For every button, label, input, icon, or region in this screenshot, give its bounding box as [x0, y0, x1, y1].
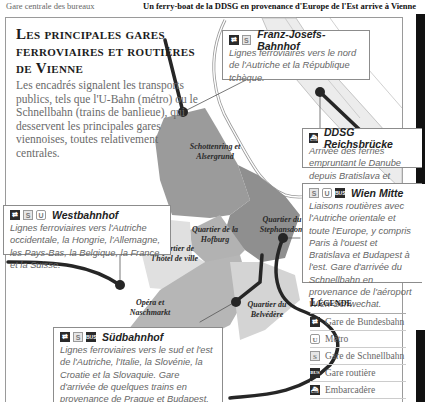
schnellbahn-icon: S	[73, 332, 83, 342]
metro-icon: U	[36, 210, 46, 220]
district-label-hofburg: Quartier de la Hofburg	[185, 225, 245, 244]
legend-item-gare-routiere: BUS Gare routière	[310, 365, 406, 382]
station-box-suedbahnhof: ⇄ S BUS Südbahnhof Lignes ferroviaires v…	[53, 327, 223, 402]
station-name: Wien Mitte	[351, 187, 403, 199]
marker-reichsbruecke	[315, 87, 325, 97]
gare-routiere-icon: BUS	[335, 188, 345, 198]
embarcadere-icon: ⛴	[309, 133, 318, 143]
district-label-opera: Opéra et Naschmarkt	[120, 298, 180, 317]
district-label-belvedere: Quartier du Belvédère	[232, 300, 302, 319]
legend-item-embarcadere: ⛴ Embarcadère	[310, 382, 406, 399]
gare-routiere-icon: BUS	[86, 332, 96, 342]
schnellbahn-icon: S	[310, 351, 320, 361]
legend-label: Métro	[325, 334, 348, 344]
gare-routiere-icon: BUS	[310, 368, 320, 378]
marker-westbahnhof	[115, 280, 125, 290]
legend-item-bundesbahn: ⇄ Gare de Bundesbahn	[310, 314, 406, 331]
station-name: Südbahnhof	[102, 331, 163, 343]
station-name: Westbahnhof	[52, 209, 118, 221]
legend-item-schnellbahn: S Gare de Schnellbahn	[310, 348, 406, 365]
bundesbahn-icon: ⇄	[60, 332, 70, 342]
bundesbahn-icon: ⇄	[229, 35, 239, 45]
map-intro-text: Les encadrés signalent les transports pu…	[16, 79, 201, 160]
schnellbahn-icon: S	[309, 188, 319, 198]
legend-label: Embarcadère	[325, 385, 375, 395]
intro-panel: Les principales gares ferroviaires et ro…	[16, 26, 201, 160]
map-legend: Légende ⇄ Gare de Bundesbahn U Métro S G…	[310, 295, 406, 399]
station-box-wien-mitte: S U BUS Wien Mitte Liaisons routières av…	[302, 183, 422, 283]
marker-wien-mitte	[278, 233, 288, 243]
legend-label: Gare routière	[325, 368, 375, 378]
bundesbahn-icon: ⇄	[10, 210, 20, 220]
metro-icon: U	[322, 188, 332, 198]
station-box-westbahnhof: ⇄ S U Westbahnhof Lignes ferroviaires ve…	[3, 205, 171, 255]
station-description: Lignes ferroviaires vers le nord de l'Au…	[229, 47, 363, 84]
legend-label: Gare de Schnellbahn	[325, 351, 404, 361]
schnellbahn-icon: S	[242, 35, 252, 45]
station-description: Lignes ferroviaires vers l'Autriche occi…	[10, 222, 164, 271]
bundesbahn-icon: ⇄	[310, 317, 320, 327]
district-label-schottenring: Schottenring et Alsergrund	[180, 142, 250, 161]
legend-title: Légende	[310, 295, 406, 314]
legend-item-metro: U Métro	[310, 331, 406, 348]
map-title: Les principales gares ferroviaires et ro…	[16, 26, 201, 77]
station-box-reichsbruecke: ⛴ DDSG Reichsbrücke Arrivée des ferries …	[302, 128, 422, 168]
station-description: Lignes ferroviaires vers le sud et l'est…	[60, 344, 216, 402]
legend-label: Gare de Bundesbahn	[325, 317, 404, 327]
metro-icon: U	[310, 334, 320, 344]
embarcadere-icon: ⛴	[310, 385, 320, 395]
station-box-franz-josefs: ⇄ S Franz-Josefs-Bahnhof Lignes ferrovia…	[222, 30, 370, 80]
schnellbahn-icon: S	[23, 210, 33, 220]
